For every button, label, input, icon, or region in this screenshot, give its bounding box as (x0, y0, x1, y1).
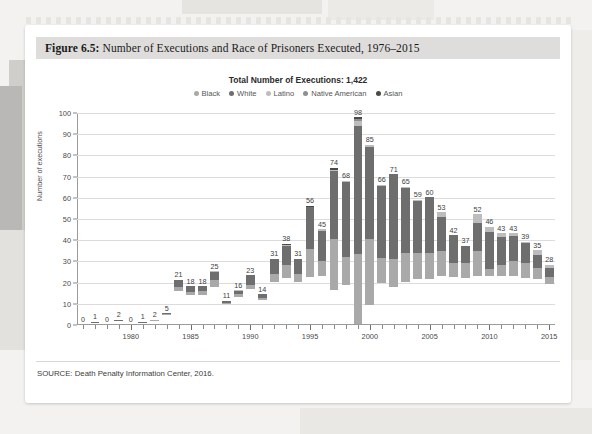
bar-segment-white (545, 268, 554, 278)
x-label-slot: 1985 (185, 332, 197, 344)
bar-value-label: 18 (187, 277, 195, 286)
bar-value-label: 2 (117, 310, 121, 319)
x-tick (244, 325, 256, 330)
legend-item-white[interactable]: White (229, 89, 256, 98)
bar-column[interactable]: 71 (388, 113, 400, 324)
x-label-slot (77, 332, 89, 344)
bar-segment-white (437, 217, 446, 251)
x-tick (101, 325, 113, 330)
y-tick-label: 20 (63, 278, 71, 287)
bar-value-label: 0 (81, 315, 85, 324)
bar-column[interactable]: 0 (77, 113, 89, 324)
y-tick-label: 40 (63, 236, 71, 245)
bar-column[interactable]: 11 (220, 113, 232, 324)
bar-segment-white (521, 243, 530, 263)
bar-segment-white (509, 236, 518, 261)
bar-column[interactable]: 43 (507, 113, 519, 324)
bar-value-label: 59 (414, 190, 422, 199)
x-label-slot: 1990 (244, 332, 256, 344)
bar-column[interactable]: 2 (113, 113, 125, 324)
x-tick (400, 325, 412, 330)
x-tick (376, 325, 388, 330)
bar-column[interactable]: 52 (471, 113, 483, 324)
x-label-slot: 2000 (364, 332, 376, 344)
bar-segment-black (497, 265, 506, 276)
x-label-slot (316, 332, 328, 344)
chart-subtitle: Total Number of Executions: 1,422 (25, 75, 571, 85)
bar-column[interactable]: 25 (208, 113, 220, 324)
bar-column[interactable]: 1 (137, 113, 149, 324)
bar-segment-black (389, 259, 398, 288)
bar-value-label: 14 (258, 285, 266, 294)
x-label-slot (519, 332, 531, 344)
bar-column[interactable]: 5 (161, 113, 173, 324)
legend-item-native-american[interactable]: Native American (303, 89, 366, 98)
x-label-slot (161, 332, 173, 344)
bar-column[interactable]: 56 (304, 113, 316, 324)
legend-item-latino[interactable]: Latino (266, 89, 295, 98)
legend-item-asian[interactable]: Asian (376, 89, 403, 98)
bar-column[interactable]: 68 (340, 113, 352, 324)
x-tick (280, 325, 292, 330)
bar-value-label: 23 (246, 266, 254, 275)
bar-column[interactable]: 59 (412, 113, 424, 324)
bar-stack (425, 197, 434, 279)
bar-column[interactable]: 1 (89, 113, 101, 324)
bar-column[interactable]: 46 (483, 113, 495, 324)
bar-column[interactable]: 65 (400, 113, 412, 324)
bar-column[interactable]: 43 (495, 113, 507, 324)
bar-column[interactable]: 45 (316, 113, 328, 324)
bar-column[interactable]: 16 (232, 113, 244, 324)
bar-stack (270, 259, 279, 282)
x-tick-mark (262, 325, 263, 329)
x-tick (220, 325, 232, 330)
bar-column[interactable]: 53 (436, 113, 448, 324)
bar-value-label: 43 (497, 224, 505, 233)
figure-divider (36, 361, 560, 362)
bar-segment-black (485, 269, 494, 276)
bar-segment-black (330, 239, 339, 290)
bar-segment-white (330, 171, 339, 239)
bar-column[interactable]: 74 (328, 113, 340, 324)
legend-label: Native American (311, 89, 366, 98)
bar-column[interactable]: 31 (268, 113, 280, 324)
bar-column[interactable]: 35 (531, 113, 543, 324)
bar-value-label: 2 (153, 310, 157, 319)
bar-stack (377, 185, 386, 283)
bar-column[interactable]: 42 (448, 113, 460, 324)
x-tick-mark (83, 325, 84, 329)
bar-column[interactable]: 0 (101, 113, 113, 324)
x-label-slot: 1995 (304, 332, 316, 344)
bar-column[interactable]: 28 (543, 113, 555, 324)
bar-segment-black (270, 274, 279, 282)
bar-column[interactable]: 18 (197, 113, 209, 324)
bar-stack (258, 294, 267, 299)
x-tick (519, 325, 531, 330)
x-label-slot (460, 332, 472, 344)
x-label-slot (220, 332, 232, 344)
bar-value-label: 60 (426, 188, 434, 197)
bar-column[interactable]: 23 (244, 113, 256, 324)
bar-column[interactable]: 31 (292, 113, 304, 324)
bar-column[interactable]: 18 (185, 113, 197, 324)
bar-column[interactable]: 39 (519, 113, 531, 324)
bar-segment-white (318, 231, 327, 261)
bar-column[interactable]: 14 (256, 113, 268, 324)
bar-segment-black (306, 249, 315, 277)
x-tick-mark (131, 325, 132, 330)
legend-item-black[interactable]: Black (194, 89, 221, 98)
plot-area: 0102030405060708090100 01020125211818251… (77, 113, 555, 325)
bar-column[interactable]: 38 (280, 113, 292, 324)
bar-column[interactable]: 66 (376, 113, 388, 324)
bar-column[interactable]: 85 (364, 113, 376, 324)
bar-stack (234, 290, 243, 297)
bar-column[interactable]: 98 (352, 113, 364, 324)
bar-column[interactable]: 2 (149, 113, 161, 324)
x-label-slot (89, 332, 101, 344)
bar-column[interactable]: 37 (460, 113, 472, 324)
bar-column[interactable]: 21 (173, 113, 185, 324)
x-label-slot (400, 332, 412, 344)
bar-column[interactable]: 0 (125, 113, 137, 324)
bar-column[interactable]: 60 (424, 113, 436, 324)
bar-stack (533, 250, 542, 279)
